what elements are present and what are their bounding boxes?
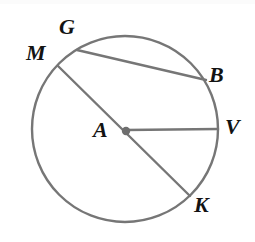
point-label-v: V (225, 116, 240, 138)
segment-chord-GB (77, 50, 206, 80)
segment-radius-AV (126, 129, 218, 130)
point-label-g: G (59, 16, 75, 38)
center-label-a: A (93, 119, 108, 141)
diagram-canvas: M G B V K A (0, 0, 255, 242)
point-label-m: M (26, 42, 46, 64)
circle-diagram-figure (0, 0, 255, 242)
center-point-dot (122, 127, 130, 135)
point-label-k: K (194, 194, 209, 216)
point-label-b: B (209, 64, 224, 86)
